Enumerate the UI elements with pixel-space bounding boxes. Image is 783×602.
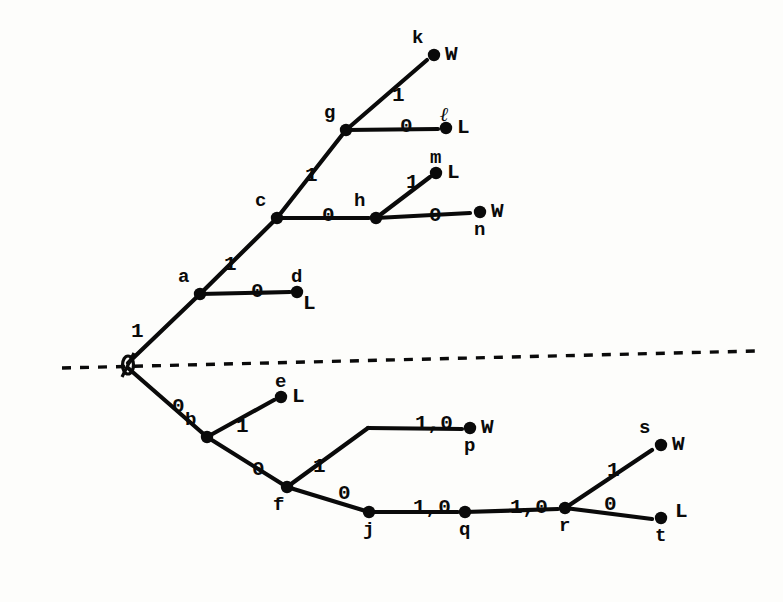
node-label-k: k bbox=[412, 29, 423, 48]
edge-label-c-h: 0 bbox=[322, 205, 335, 226]
node-dot-s bbox=[655, 439, 667, 451]
edge-label-c-g: 1 bbox=[305, 165, 318, 186]
node-layer bbox=[122, 49, 667, 524]
edge-b-f bbox=[207, 437, 287, 487]
edge-label-g-l: 0 bbox=[400, 116, 413, 137]
edge-label-f-p: 1 bbox=[313, 456, 326, 477]
node-dot-t bbox=[655, 512, 667, 524]
edge-h-n bbox=[376, 213, 470, 218]
node-dot-n bbox=[474, 206, 486, 218]
edge-label-root-a: 1 bbox=[131, 321, 144, 342]
edge-g-l bbox=[346, 129, 438, 130]
node-label-b: b bbox=[185, 411, 196, 430]
outcome-label-e: L bbox=[292, 386, 305, 407]
outcome-label-p: W bbox=[481, 417, 494, 438]
node-label-s: s bbox=[639, 419, 650, 438]
outcome-label-k: W bbox=[445, 44, 458, 65]
edge-label-a-d: 0 bbox=[251, 281, 264, 302]
node-dot-q bbox=[459, 506, 471, 518]
outcome-label-l: L bbox=[457, 117, 470, 138]
node-label-c: c bbox=[255, 192, 266, 211]
node-dot-a bbox=[194, 288, 206, 300]
game-tree-figure: abcdefghjkℓmnpqrstLLWLLWWWL1010101010101… bbox=[0, 0, 783, 602]
outcome-label-d: L bbox=[303, 293, 316, 314]
edge-label-f-j: 0 bbox=[338, 483, 351, 504]
edge-label-root-b: 0 bbox=[172, 396, 185, 417]
edge-label-b-e: 1 bbox=[236, 416, 249, 437]
edge-label-h-n: 0 bbox=[429, 205, 442, 226]
edge-label-h-m: 1 bbox=[406, 172, 419, 193]
node-dot-h bbox=[370, 212, 382, 224]
outcome-label-t: L bbox=[675, 501, 688, 522]
edge-f-p1 bbox=[287, 428, 368, 487]
node-label-d: d bbox=[291, 268, 302, 287]
edge-label-a-c: 1 bbox=[224, 254, 237, 275]
edge-a-d bbox=[200, 292, 290, 294]
node-label-g: g bbox=[324, 104, 335, 123]
edge-a-c bbox=[200, 218, 277, 294]
node-label-p: p bbox=[464, 437, 475, 456]
outcome-label-s: W bbox=[672, 434, 685, 455]
node-dot-g bbox=[340, 124, 352, 136]
node-label-h: h bbox=[354, 192, 365, 211]
edge-layer bbox=[128, 60, 652, 519]
node-label-a: a bbox=[178, 268, 189, 287]
edge-label-r-t: 0 bbox=[604, 494, 617, 515]
edge-h-m bbox=[376, 177, 430, 218]
outcome-label-n: W bbox=[491, 201, 504, 222]
node-dot-k bbox=[428, 49, 440, 61]
edge-g-k bbox=[346, 60, 427, 130]
edge-label-j-q: 1,0 bbox=[413, 497, 451, 518]
node-dot-b bbox=[201, 431, 213, 443]
horizontal-dashed-line bbox=[62, 351, 756, 368]
node-label-q: q bbox=[459, 521, 470, 540]
node-label-t: t bbox=[655, 527, 666, 546]
edge-label-q-r: 1,0 bbox=[510, 497, 548, 518]
node-label-j: j bbox=[363, 521, 374, 540]
node-label-l: ℓ bbox=[440, 104, 449, 124]
edge-label-r-s: 1 bbox=[607, 460, 620, 481]
edge-label-p-p_end: 1,0 bbox=[415, 413, 453, 434]
node-label-m: m bbox=[430, 149, 441, 168]
node-label-n: n bbox=[474, 221, 485, 240]
node-dot-f bbox=[281, 481, 293, 493]
edge-f-j bbox=[287, 487, 369, 512]
node-dot-p bbox=[464, 422, 476, 434]
divider-layer bbox=[62, 351, 756, 368]
node-dot-c bbox=[271, 212, 283, 224]
node-label-e: e bbox=[275, 373, 286, 392]
node-label-r: r bbox=[559, 517, 570, 536]
edge-label-b-f: 0 bbox=[252, 459, 265, 480]
node-dot-r bbox=[559, 502, 571, 514]
outcome-label-m: L bbox=[447, 162, 460, 183]
node-dot-j bbox=[363, 506, 375, 518]
node-label-f: f bbox=[273, 496, 284, 515]
edge-label-g-k: 1 bbox=[392, 85, 405, 106]
